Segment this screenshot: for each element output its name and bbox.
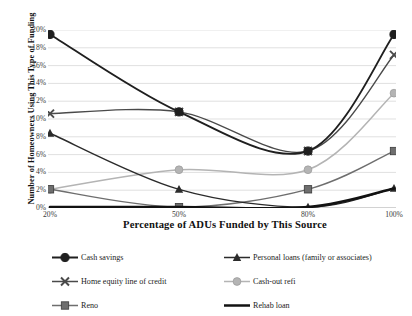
y-tick-label: 10%: [22, 114, 46, 123]
legend-marker-circle-icon: [224, 276, 250, 287]
legend-item-rehab-loan[interactable]: Rehab loan: [224, 300, 290, 311]
x-axis-title: Percentage of ADUs Funded by This Source: [40, 219, 410, 230]
legend-label: Cash-out refi: [253, 277, 295, 286]
y-tick-label: 18%: [22, 43, 46, 52]
data-point-marker: [304, 147, 312, 155]
legend-marker-circle-filled-icon: [52, 252, 78, 263]
y-tick-label: 16%: [22, 61, 46, 70]
legend-label: Rehab loan: [253, 301, 290, 310]
y-tick-label: 12%: [22, 96, 46, 105]
legend-item-personal-loans-family-or-associates[interactable]: Personal loans (family or associates): [224, 252, 372, 263]
series-line: [50, 55, 394, 152]
series-line: [50, 34, 394, 154]
series-cash-savings: [48, 30, 396, 155]
data-point-marker: [48, 186, 54, 193]
data-point-marker: [390, 51, 396, 59]
y-tick-label: 14%: [22, 78, 46, 87]
series-line: [50, 93, 394, 189]
plot-area: [48, 30, 396, 208]
data-point-marker: [48, 129, 54, 137]
legend-marker-triangle-icon: [224, 252, 250, 263]
data-point-marker: [390, 89, 396, 97]
data-point-marker: [390, 30, 396, 38]
line-chart: Number of Homeowners Using This Type of …: [0, 0, 412, 316]
y-tick-label: 8%: [22, 132, 46, 141]
series-personal-loans-family-or-associates: [48, 129, 396, 208]
legend-label: Reno: [81, 301, 98, 310]
y-tick-label: 4%: [22, 167, 46, 176]
data-point-marker: [304, 166, 312, 174]
y-tick-label: 6%: [22, 150, 46, 159]
y-axis-tick-labels: 0%2%4%6%8%10%12%14%16%18%20%: [16, 30, 46, 208]
legend-marker-square-icon: [52, 300, 78, 311]
data-point-marker: [61, 253, 69, 261]
legend-label: Cash savings: [81, 253, 124, 262]
legend-marker-x-icon: [52, 276, 78, 287]
legend-item-cash-savings[interactable]: Cash savings: [52, 252, 124, 263]
data-point-marker: [233, 278, 241, 286]
legend-label: Personal loans (family or associates): [253, 253, 372, 262]
legend-label: Home equity line of credit: [81, 277, 166, 286]
data-point-marker: [304, 186, 311, 193]
plot-svg: [48, 30, 396, 208]
legend-marker-none-icon: [224, 300, 250, 311]
data-point-marker: [390, 147, 396, 154]
data-point-marker: [175, 166, 183, 174]
x-tick-label: 20%: [43, 210, 57, 219]
series-line: [50, 133, 394, 207]
x-tick-label: 50%: [172, 210, 186, 219]
legend-item-reno[interactable]: Reno: [52, 300, 98, 311]
x-tick-label: 80%: [301, 210, 315, 219]
data-point-marker: [61, 302, 68, 309]
data-point-marker: [48, 30, 54, 38]
legend-item-home-equity-line-of-credit[interactable]: Home equity line of credit: [52, 276, 166, 287]
legend-item-cash-out-refi[interactable]: Cash-out refi: [224, 276, 295, 287]
chart-legend: Cash savingsPersonal loans (family or as…: [52, 252, 402, 312]
series-cash-out-refi: [48, 89, 396, 193]
y-tick-label: 20%: [22, 25, 46, 34]
y-tick-label: 2%: [22, 185, 46, 194]
x-tick-label: 100%: [385, 210, 403, 219]
data-point-marker: [175, 108, 183, 116]
